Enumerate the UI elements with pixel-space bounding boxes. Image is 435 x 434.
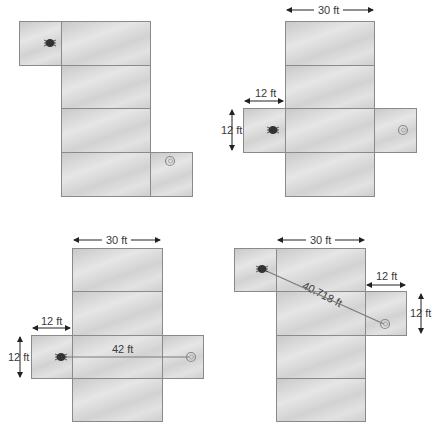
bug-icon: [267, 126, 279, 134]
annotation-layer: [0, 0, 435, 434]
spider-icon: [166, 157, 175, 166]
spider-icon: [399, 126, 408, 135]
bug-icon: [44, 39, 56, 47]
spider-icon: [381, 320, 390, 329]
net-d-path-line: [262, 269, 384, 324]
bug-icon: [55, 353, 67, 361]
bug-icon: [256, 265, 268, 273]
